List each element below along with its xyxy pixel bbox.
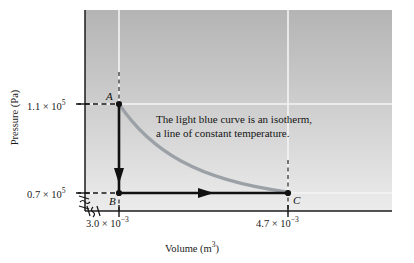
x-axis-title: Volume (m3): [165, 240, 219, 254]
y-tick-label-0p7e5: 0.7 × 105: [27, 186, 66, 200]
state-point-b: [116, 190, 122, 196]
plot-area-background: [85, 10, 392, 211]
isotherm-annotation-line-1: The light blue curve is an isotherm,: [156, 112, 356, 126]
state-point-label-c: C: [293, 194, 300, 206]
x-tick-label-4p7e-3: 4.7 × 10−3: [256, 215, 299, 229]
state-point-label-a: A: [106, 90, 113, 102]
x-tick-label-3e-3: 3.0 × 10−3: [86, 215, 129, 229]
state-point-c: [285, 190, 291, 196]
y-axis-title: Pressure (Pa): [9, 83, 20, 153]
y-tick-label-1p1e5: 1.1 × 105: [27, 98, 66, 112]
isotherm-annotation-line-2: a line of constant temperature.: [156, 126, 356, 140]
state-point-a: [116, 101, 122, 107]
isotherm-annotation: The light blue curve is an isotherm, a l…: [156, 112, 356, 140]
pv-diagram-figure: Pressure (Pa) Volume (m3) 1.1 × 105 0.7 …: [0, 0, 414, 263]
state-point-label-b: B: [109, 195, 116, 207]
